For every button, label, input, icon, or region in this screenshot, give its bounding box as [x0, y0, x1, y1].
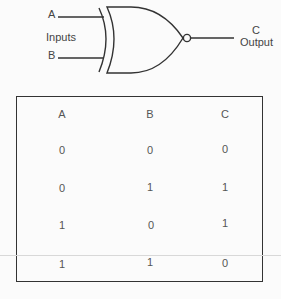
- cell-r2-a: 0: [59, 183, 65, 194]
- logic-gate-symbol: [0, 0, 281, 90]
- cell-r1-c: 0: [222, 144, 228, 155]
- cell-r3-b: 0: [148, 220, 154, 231]
- cell-r2-c: 1: [222, 182, 228, 193]
- gate-body: [107, 7, 183, 73]
- output-label: Output: [240, 37, 273, 48]
- cell-r4-c: 0: [222, 258, 228, 269]
- scan-artifact-line: [0, 255, 281, 256]
- inversion-bubble: [183, 34, 190, 41]
- input-a-label: A: [48, 9, 55, 20]
- cell-r1-a: 0: [59, 145, 65, 156]
- cell-r2-b: 1: [147, 182, 153, 193]
- header-a: A: [58, 109, 65, 120]
- header-c: C: [221, 109, 229, 120]
- inputs-label: Inputs: [46, 32, 76, 43]
- cell-r1-b: 0: [147, 145, 153, 156]
- cell-r4-b: 1: [147, 257, 153, 268]
- cell-r3-c: 1: [222, 218, 228, 229]
- input-b-label: B: [48, 50, 55, 61]
- output-c-label: C: [252, 25, 260, 36]
- header-b: B: [146, 109, 153, 120]
- cell-r4-a: 1: [59, 259, 65, 270]
- cell-r3-a: 1: [59, 220, 65, 231]
